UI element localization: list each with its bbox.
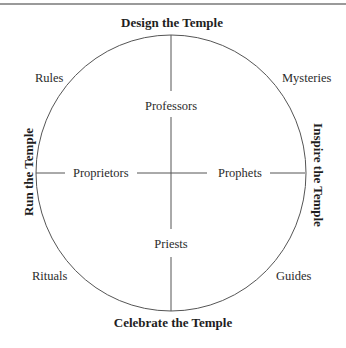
label-rituals: Rituals bbox=[32, 269, 67, 283]
title-design: Design the Temple bbox=[121, 15, 223, 30]
title-inspire: Inspire the Temple bbox=[311, 123, 326, 227]
label-priests: Priests bbox=[154, 237, 187, 251]
label-professors: Professors bbox=[145, 99, 197, 113]
temple-circle-diagram bbox=[0, 0, 346, 348]
label-proprietors: Proprietors bbox=[73, 166, 129, 180]
title-celebrate: Celebrate the Temple bbox=[114, 315, 232, 330]
label-guides: Guides bbox=[276, 269, 311, 283]
label-prophets: Prophets bbox=[218, 166, 262, 180]
label-rules: Rules bbox=[35, 71, 63, 85]
title-run: Run the Temple bbox=[21, 128, 36, 216]
label-mysteries: Mysteries bbox=[282, 71, 331, 85]
